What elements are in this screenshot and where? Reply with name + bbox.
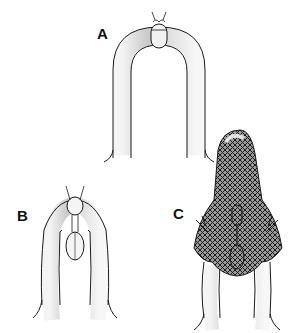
panel-label-c: C	[173, 206, 184, 221]
panel-a-illustration	[104, 12, 214, 162]
panel-label-a: A	[97, 26, 108, 41]
panel-label-b: B	[17, 208, 28, 223]
figure-canvas	[0, 0, 294, 333]
panel-b-illustration	[33, 186, 117, 320]
panel-c-illustration	[194, 130, 282, 330]
